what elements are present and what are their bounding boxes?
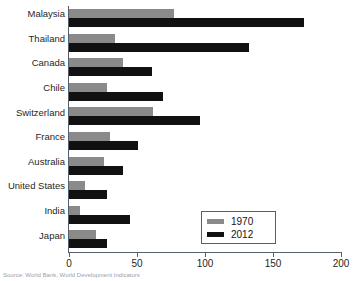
bar-2012 (69, 215, 130, 224)
bar-1970 (69, 206, 80, 215)
category-group: Chile (69, 80, 341, 105)
x-tick (205, 253, 206, 257)
bar-2012 (69, 116, 200, 125)
category-label: Canada (2, 58, 65, 68)
chart-caption: Source: World Bank, World Development In… (3, 272, 347, 279)
category-label: Chile (2, 83, 65, 93)
bar-1970 (69, 230, 96, 239)
bar-1970 (69, 83, 107, 92)
x-tick (137, 253, 138, 257)
category-label: France (2, 132, 65, 142)
category-label: Switzerland (2, 108, 65, 118)
category-label: Australia (2, 157, 65, 167)
category-label: India (2, 206, 65, 216)
bar-1970 (69, 9, 174, 18)
category-group: France (69, 129, 341, 154)
legend-label-2012: 2012 (231, 229, 253, 240)
bar-2012 (69, 92, 163, 101)
bar-1970 (69, 58, 123, 67)
category-label: Thailand (2, 34, 65, 44)
category-group: United States (69, 178, 341, 203)
x-tick (341, 253, 342, 257)
x-tick-label: 150 (256, 258, 290, 269)
bar-2012 (69, 141, 138, 150)
x-tick-label: 0 (52, 258, 86, 269)
bar-2012 (69, 43, 249, 52)
x-tick (273, 253, 274, 257)
legend-item-1970: 1970 (207, 216, 270, 227)
legend-swatch-1970 (207, 219, 224, 224)
category-group: Switzerland (69, 104, 341, 129)
bar-2012 (69, 67, 152, 76)
x-tick-label: 50 (120, 258, 154, 269)
legend-label-1970: 1970 (231, 216, 253, 227)
x-tick (69, 253, 70, 257)
x-tick-label: 100 (188, 258, 222, 269)
bar-1970 (69, 34, 115, 43)
x-tick-label: 200 (324, 258, 354, 269)
bar-2012 (69, 239, 107, 248)
bar-1970 (69, 157, 104, 166)
category-group: Australia (69, 154, 341, 179)
legend-swatch-2012 (207, 232, 224, 237)
bar-1970 (69, 181, 85, 190)
category-group: Thailand (69, 31, 341, 56)
bar-2012 (69, 190, 107, 199)
category-label: Malaysia (2, 9, 65, 19)
category-group: Canada (69, 55, 341, 80)
category-label: United States (2, 181, 65, 191)
bar-1970 (69, 107, 153, 116)
category-group: Malaysia (69, 6, 341, 31)
bar-2012 (69, 18, 304, 27)
bar-1970 (69, 132, 110, 141)
chart-legend: 1970 2012 (201, 211, 276, 244)
category-label: Japan (2, 231, 65, 241)
legend-item-2012: 2012 (207, 229, 270, 240)
bar-2012 (69, 166, 123, 175)
